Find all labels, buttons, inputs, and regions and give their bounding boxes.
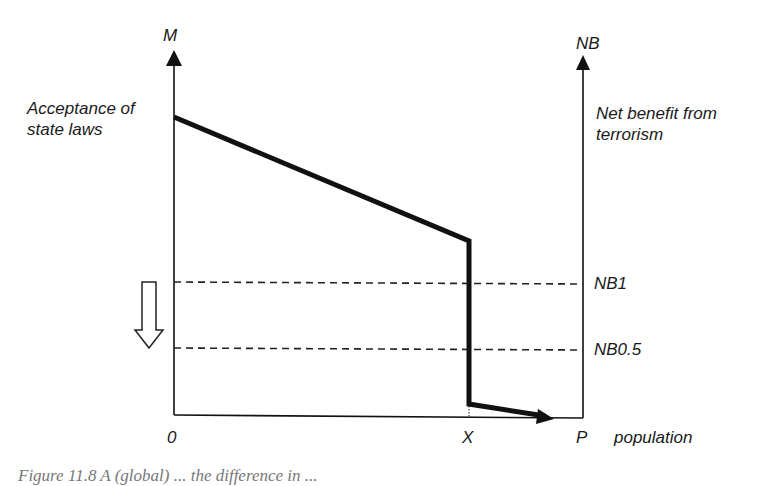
x-tick-x: X: [462, 428, 473, 448]
x-axis-label: population: [614, 428, 692, 448]
x-tick-origin: 0: [167, 428, 176, 448]
right-axis-label: NB: [576, 34, 600, 54]
downward-shift-arrow-icon: [135, 282, 163, 348]
acceptance-label-line1: Acceptance of: [27, 99, 135, 119]
net-benefit-label-line2: terrorism: [596, 125, 663, 145]
nb1-label: NB1: [594, 274, 627, 294]
nb1-level-line: [174, 282, 583, 284]
x-axis: [174, 415, 583, 418]
nb05-label: NB0.5: [594, 340, 641, 360]
nb05-level-line: [174, 348, 583, 350]
left-axis-arrowhead-icon: [166, 50, 182, 66]
left-axis-label: M: [163, 26, 177, 46]
figure-caption: Figure 11.8 A (global) ... the differenc…: [18, 466, 318, 486]
net-benefit-label-line1: Net benefit from: [596, 104, 717, 124]
curve-end-arrowhead-icon: [536, 409, 554, 424]
acceptance-label-line2: state laws: [27, 120, 103, 140]
x-tick-p: P: [576, 428, 587, 448]
acceptance-curve: [174, 117, 545, 416]
right-axis-arrowhead-icon: [576, 55, 590, 70]
